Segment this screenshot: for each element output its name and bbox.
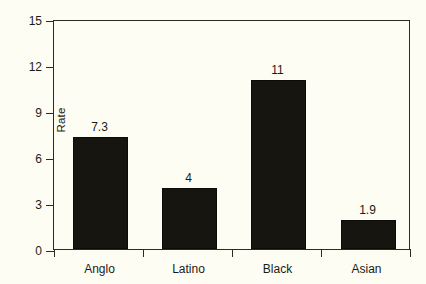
x-tick-4	[410, 249, 411, 257]
bar-black[interactable]	[251, 80, 306, 249]
y-tick-label-15: 15	[29, 14, 42, 28]
x-category-latino: Latino	[172, 262, 205, 276]
bar-value-anglo: 7.3	[91, 120, 108, 134]
bar-value-latino: 4	[185, 171, 192, 185]
bar-latino[interactable]	[162, 188, 217, 249]
y-tick-label-6: 6	[35, 152, 42, 166]
x-tick-3	[321, 249, 322, 257]
bar-value-black: 11	[271, 63, 283, 77]
y-tick-label-3: 3	[35, 198, 42, 212]
y-axis-title: Rate	[55, 75, 67, 165]
bar-chart: Rate 15 12 9 6 3 0 7.3 4 11	[0, 0, 426, 284]
x-category-black: Black	[263, 262, 292, 276]
x-tick-0	[54, 249, 55, 257]
y-tick-label-12: 12	[29, 60, 42, 74]
bar-anglo[interactable]	[73, 137, 128, 249]
y-tick-15: 15	[46, 21, 54, 22]
plot-area: Rate 15 12 9 6 3 0	[53, 20, 410, 250]
y-tick-0: 0	[46, 251, 54, 252]
y-tick-label-9: 9	[35, 106, 42, 120]
x-category-asian: Asian	[351, 262, 381, 276]
y-tick-12: 12	[46, 67, 54, 68]
x-tick-2	[232, 249, 233, 257]
bar-asian[interactable]	[341, 220, 396, 249]
y-tick-6: 6	[46, 159, 54, 160]
y-tick-label-0: 0	[35, 244, 42, 258]
x-tick-1	[143, 249, 144, 257]
x-category-anglo: Anglo	[84, 262, 115, 276]
y-tick-3: 3	[46, 205, 54, 206]
bar-value-asian: 1.9	[359, 203, 376, 217]
y-tick-9: 9	[46, 113, 54, 114]
